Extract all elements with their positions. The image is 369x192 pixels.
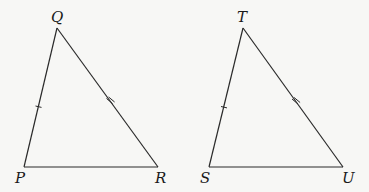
tick-mark-st	[221, 107, 227, 108]
vertex-label-u: U	[342, 169, 356, 187]
side-tu	[243, 28, 343, 167]
diagram-canvas: Q P R T S U	[0, 0, 369, 192]
vertex-label-p: P	[14, 169, 26, 187]
vertex-label-r: R	[154, 169, 166, 187]
side-st	[209, 28, 243, 167]
tick-mark-pq	[36, 106, 42, 107]
side-qr	[57, 28, 158, 167]
vertex-label-t: T	[237, 8, 248, 26]
side-pq	[24, 28, 57, 167]
vertex-label-q: Q	[51, 8, 63, 26]
triangle-stu: T S U	[200, 8, 356, 187]
triangle-pqr: Q P R	[14, 8, 166, 187]
vertex-label-s: S	[200, 169, 210, 187]
